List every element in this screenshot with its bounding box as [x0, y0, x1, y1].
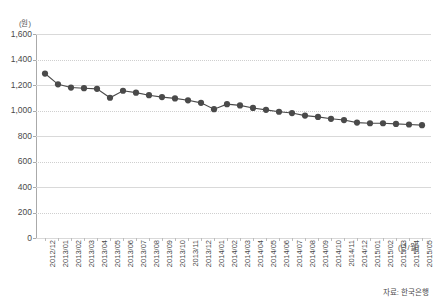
y-tick-mark [33, 60, 36, 61]
x-tick-label: 2014/07 [296, 240, 304, 267]
x-tick-label: 2013/06 [127, 240, 135, 267]
data-point-marker [198, 100, 204, 106]
data-point-marker [237, 102, 243, 108]
data-point-marker [81, 85, 87, 91]
y-axis-unit-label: (원) [19, 17, 31, 28]
data-point-marker [302, 113, 308, 119]
x-tick-label: 2013/03 [88, 240, 96, 267]
gridline [36, 238, 431, 239]
data-point-marker [393, 121, 399, 127]
x-tick-label: 2013/12 [205, 240, 213, 267]
data-point-marker [42, 70, 48, 76]
y-tick-mark [33, 162, 36, 163]
y-tick-mark [33, 187, 36, 188]
x-tick-label: 2014/04 [257, 240, 265, 267]
data-point-marker [250, 105, 256, 111]
data-point-marker [341, 117, 347, 123]
x-tick-label: 2014/01 [218, 240, 226, 267]
x-tick-label: 2014/02 [231, 240, 239, 267]
data-point-marker [289, 110, 295, 116]
data-point-marker [367, 120, 373, 126]
x-tick-label: 2013/11 [192, 240, 200, 267]
y-tick-label: 1,000 [11, 106, 32, 115]
x-tick-label: 2013/07 [140, 240, 148, 267]
x-tick-label: 2014/12 [361, 240, 369, 267]
x-tick-label: 2014/11 [348, 240, 356, 267]
y-tick-mark [33, 238, 36, 239]
data-point-marker [380, 120, 386, 126]
data-point-marker [185, 97, 191, 103]
y-tick-label: 0 [27, 234, 32, 243]
x-tick-label: 2013/01 [62, 240, 70, 267]
data-point-marker [419, 122, 425, 128]
x-tick-label: 2014/09 [322, 240, 330, 267]
y-tick-mark [33, 213, 36, 214]
y-tick-mark [33, 85, 36, 86]
x-tick-label: 2014/06 [283, 240, 291, 267]
x-tick-label: 2013/08 [153, 240, 161, 267]
data-point-marker [159, 94, 165, 100]
source-note: 자료: 한국은행 [383, 286, 429, 297]
data-point-marker [211, 106, 217, 112]
data-point-marker [276, 109, 282, 115]
x-tick-label: 2014/10 [335, 240, 343, 267]
x-tick-label: 2015/05 [426, 240, 434, 267]
data-point-marker [55, 81, 61, 87]
data-point-marker [406, 121, 412, 127]
x-tick-label: 2013/05 [114, 240, 122, 267]
data-point-marker [263, 107, 269, 113]
y-axis-tick-labels: 1,6001,4001,2001,0008006004002000 [0, 34, 32, 238]
x-tick-label: 2013/09 [166, 240, 174, 267]
data-point-marker [94, 86, 100, 92]
y-tick-mark [33, 34, 36, 35]
data-point-marker [68, 84, 74, 90]
series-line [45, 74, 422, 126]
y-tick-label: 400 [18, 183, 32, 192]
chart-figure: (원) 1,6001,4001,2001,0008006004002000 20… [0, 0, 437, 302]
data-point-marker [107, 95, 113, 101]
x-axis-unit-label: (년/월) [398, 241, 419, 252]
data-series-line [36, 34, 431, 238]
x-tick-label: 2012/12 [49, 240, 57, 267]
x-tick-label: 2014/03 [244, 240, 252, 267]
data-point-marker [146, 92, 152, 98]
y-tick-label: 200 [18, 208, 32, 217]
y-tick-mark [33, 136, 36, 137]
data-point-marker [315, 114, 321, 120]
data-point-marker [354, 120, 360, 126]
data-point-marker [120, 88, 126, 94]
x-tick-label: 2014/08 [309, 240, 317, 267]
y-tick-mark [33, 111, 36, 112]
data-point-marker [328, 116, 334, 122]
x-tick-label: 2015/01 [374, 240, 382, 267]
x-tick-label: 2014/05 [270, 240, 278, 267]
x-axis-tick-labels: 2012/122013/012013/022013/032013/042013/… [36, 240, 431, 286]
x-tick-label: 2015/02 [387, 240, 395, 267]
plot-area [36, 34, 431, 238]
x-tick-label: 2013/04 [101, 240, 109, 267]
x-tick-label: 2013/02 [75, 240, 83, 267]
data-point-marker [172, 95, 178, 101]
x-tick-label: 2013/10 [179, 240, 187, 267]
y-tick-label: 1,200 [11, 81, 32, 90]
y-tick-label: 800 [18, 132, 32, 141]
data-point-marker [133, 90, 139, 96]
y-tick-label: 600 [18, 157, 32, 166]
y-tick-label: 1,600 [11, 30, 32, 39]
y-tick-label: 1,400 [11, 55, 32, 64]
data-point-marker [224, 101, 230, 107]
